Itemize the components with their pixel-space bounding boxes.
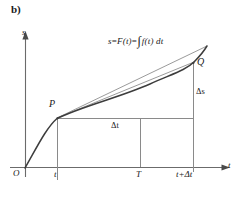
- formula-differential: dt: [156, 36, 163, 46]
- formula-s-equals-F-integral: s=F(t)=∫f(t) dt: [108, 33, 163, 46]
- point-label-P: P: [49, 99, 55, 109]
- tick-label-t: t: [54, 170, 57, 179]
- t-axis: [10, 164, 230, 170]
- figure-panel-b: b) s t O t T t+Δt P Q Δt Δs s=F(t)=∫f(t)…: [0, 0, 240, 199]
- delta-t-label: Δt: [111, 121, 119, 130]
- t-axis-label: t: [228, 161, 231, 170]
- panel-label: b): [11, 4, 21, 15]
- secant-ray-from-P: [57, 46, 207, 118]
- formula-F-of-t: F(t): [117, 36, 132, 46]
- figure-canvas: [0, 0, 240, 199]
- point-label-Q: Q: [197, 57, 204, 67]
- integral-sign-icon: ∫: [137, 33, 142, 48]
- s-axis: [22, 31, 28, 177]
- point-marker-P: [56, 117, 58, 119]
- formula-integrand: f(t): [142, 36, 154, 46]
- tick-label-T: T: [136, 170, 141, 179]
- origin-label: O: [13, 169, 20, 178]
- delta-s-label: Δs: [196, 87, 205, 96]
- point-marker-Q: [192, 62, 194, 64]
- s-axis-label: s: [22, 28, 26, 37]
- tick-label-t-plus-delta-t: t+Δt: [176, 170, 192, 179]
